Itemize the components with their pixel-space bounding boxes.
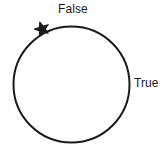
label-true: True [134, 77, 159, 90]
loop-circle [14, 27, 130, 143]
diagram-canvas: False True [0, 0, 164, 152]
label-false: False [58, 3, 88, 16]
